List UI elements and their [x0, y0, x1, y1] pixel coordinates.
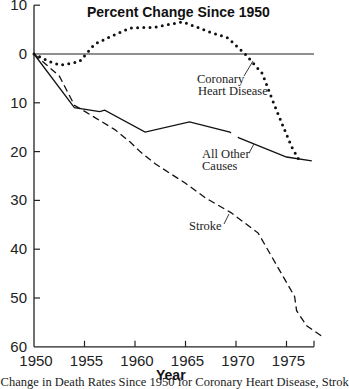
x-tick-label: 1955: [70, 352, 103, 369]
x-axis-ticks: 195019551960196519701975: [19, 341, 314, 369]
annotation-stroke-leader: [224, 214, 229, 224]
y-tick-label: 30: [10, 191, 27, 208]
y-axis-ticks: 100102030405060: [10, 0, 40, 355]
series-all-other-causes: [34, 54, 312, 161]
x-tick-label: 1975: [272, 352, 305, 369]
x-tick-label: 1950: [19, 352, 52, 369]
annotation-other: All Other Causes: [202, 144, 254, 173]
y-tick-label: 0: [19, 45, 27, 62]
y-tick-label: 10: [10, 0, 27, 13]
y-tick-label: 50: [10, 289, 27, 306]
annotation-chd: Coronary Heart Disease: [197, 61, 268, 98]
annotation-chd-line2: Heart Disease: [198, 84, 268, 98]
annotation-stroke-label: Stroke: [189, 219, 222, 233]
figure-caption: t Change in Death Rates Since 1950 for C…: [0, 375, 349, 389]
annotation-chd-leader: [244, 61, 253, 76]
series-group: [34, 22, 322, 336]
y-tick-label: 10: [10, 94, 27, 111]
y-tick-label: 40: [10, 240, 27, 257]
annotation-other-line2: Causes: [202, 159, 238, 173]
annotation-other-leader: [249, 144, 254, 153]
x-tick-label: 1970: [221, 352, 254, 369]
y-tick-label: 20: [10, 143, 27, 160]
line-gap: [231, 133, 238, 137]
annotation-stroke: Stroke: [189, 214, 229, 233]
x-tick-label: 1960: [120, 352, 153, 369]
chart-title: Percent Change Since 1950: [87, 4, 270, 20]
series-stroke: [34, 54, 322, 336]
